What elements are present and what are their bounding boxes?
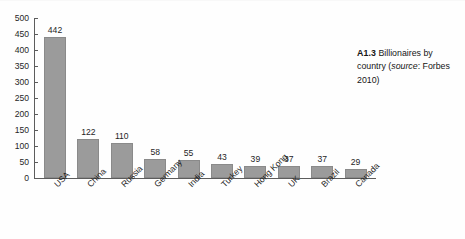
figure-caption-source-word: source [391,61,417,71]
y-axis-tick-label: 250 [0,93,29,103]
figure-container: 050100150200250300350400450500 442122110… [0,0,465,239]
y-axis-tick-label: 350 [0,61,29,71]
figure-caption-ref: A1.3 [357,48,376,58]
y-axis-tick-label: 50 [0,157,29,167]
scan-edge [0,0,465,1]
y-axis-tick-label: 100 [0,141,29,151]
y-axis-tick-label: 200 [0,109,29,119]
bar-value-label: 58 [138,147,172,157]
figure-caption: A1.3 Billionaires by country (source: Fo… [357,47,459,87]
bar-value-label: 43 [205,152,239,162]
bar-value-label: 39 [238,154,272,164]
y-axis-tick-label: 150 [0,125,29,135]
bar [44,37,66,178]
y-axis-tick-label: 0 [0,173,29,183]
bar-value-label: 29 [339,157,373,167]
y-axis-tick-label: 300 [0,77,29,87]
y-axis-tick-label: 500 [0,13,29,23]
y-axis-tick-label: 450 [0,29,29,39]
bar-value-label: 122 [71,127,105,137]
bar-value-label: 37 [305,154,339,164]
y-axis-tick-label: 400 [0,45,29,55]
bar-value-label: 110 [105,131,139,141]
y-axis-tick [34,178,38,179]
bar-value-label: 442 [38,25,72,35]
plot-area: 44212211058554339373729 [34,18,364,178]
